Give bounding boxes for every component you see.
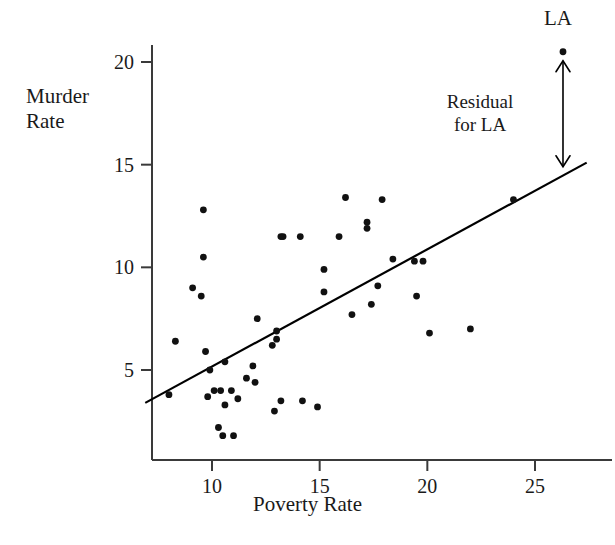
data-point — [222, 402, 229, 409]
scatter-plot: 510152010152025 — [0, 0, 615, 545]
data-point — [273, 336, 280, 343]
data-point — [368, 301, 375, 308]
data-point — [349, 311, 356, 318]
data-point — [228, 387, 235, 394]
data-point — [467, 326, 474, 333]
y-tick-label: 15 — [114, 154, 134, 176]
y-axis-title: Murder Rate — [26, 84, 89, 134]
data-point — [271, 408, 278, 415]
y-tick-label: 5 — [124, 359, 134, 381]
data-point — [198, 293, 205, 300]
data-point — [321, 289, 328, 296]
data-point — [342, 194, 349, 201]
data-point — [204, 393, 211, 400]
data-point — [219, 432, 226, 439]
residual-annotation-label: Residual for LA — [424, 90, 536, 136]
data-point — [389, 256, 396, 263]
data-point — [202, 348, 209, 355]
data-point — [321, 266, 328, 273]
la-point-label: LA — [526, 6, 590, 31]
residual-arrow-group — [556, 61, 570, 167]
data-point — [411, 258, 418, 265]
data-point — [252, 379, 259, 386]
regression-line-group — [145, 163, 586, 403]
data-point — [172, 338, 179, 345]
y-tick-label: 10 — [114, 256, 134, 278]
data-point — [560, 48, 567, 55]
data-point — [510, 196, 517, 203]
data-point — [234, 395, 241, 402]
data-point — [297, 233, 304, 240]
data-point — [374, 282, 381, 289]
regression-line — [145, 163, 586, 403]
data-point — [230, 432, 237, 439]
data-point — [222, 358, 229, 365]
data-point — [280, 233, 287, 240]
chart-page: 510152010152025 Murder Rate Poverty Rate… — [0, 0, 615, 545]
data-point — [269, 342, 276, 349]
data-point — [200, 206, 207, 213]
data-point — [189, 284, 196, 291]
data-point — [364, 219, 371, 226]
data-point — [379, 196, 386, 203]
data-point — [254, 315, 261, 322]
data-point — [426, 330, 433, 337]
data-point — [336, 233, 343, 240]
data-point — [273, 328, 280, 335]
data-point — [250, 362, 257, 369]
data-point — [215, 424, 222, 431]
x-axis-title: Poverty Rate — [0, 492, 615, 517]
data-point — [278, 397, 285, 404]
data-point — [364, 225, 371, 232]
data-point — [206, 367, 213, 374]
data-point — [243, 375, 250, 382]
y-tick-label: 20 — [114, 51, 134, 73]
data-point — [413, 293, 420, 300]
data-point — [314, 404, 321, 411]
axes-group — [152, 45, 612, 460]
data-point — [166, 391, 173, 398]
data-point — [211, 387, 218, 394]
data-point — [200, 254, 207, 261]
data-point — [299, 397, 306, 404]
data-point — [420, 258, 427, 265]
data-point — [217, 387, 224, 394]
